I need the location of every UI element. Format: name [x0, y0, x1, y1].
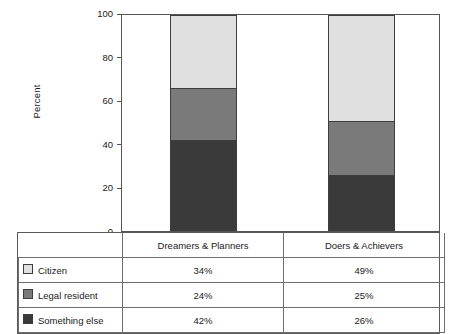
legend-item-citizen: Citizen	[19, 258, 123, 283]
legend-swatch-something-else	[23, 314, 33, 324]
bar-segment-legal-resident	[170, 88, 237, 140]
y-tick-label: 20	[83, 181, 113, 195]
legend-swatch-legal-resident	[23, 289, 33, 299]
bar-segment-citizen	[328, 15, 395, 121]
plot-area	[121, 14, 440, 232]
y-axis-label: Percent	[31, 62, 42, 142]
y-tick-label: 100	[83, 7, 113, 21]
bar-segment-citizen	[170, 15, 237, 88]
cell-something-else-doers: 26%	[284, 308, 445, 333]
legend-item-legal-resident: Legal resident	[19, 283, 123, 308]
bar-segment-legal-resident	[328, 121, 395, 175]
cell-citizen-dreamers: 34%	[123, 258, 284, 283]
data-table-legend: Dreamers & Planners Doers & Achievers Ci…	[17, 232, 440, 334]
table-row: Citizen 34% 49%	[19, 258, 445, 283]
legend-label: Citizen	[38, 265, 67, 276]
bar-segment-something-else	[328, 175, 395, 231]
y-tick-label: 80	[83, 51, 113, 65]
table-header-blank	[19, 233, 123, 258]
table-header-doers-and-achievers: Doers & Achievers	[284, 233, 445, 258]
table-header-row: Dreamers & Planners Doers & Achievers	[19, 233, 445, 258]
y-tick-label: 40	[83, 138, 113, 152]
table-row: Something else 42% 26%	[19, 308, 445, 333]
cell-legal-resident-dreamers: 24%	[123, 283, 284, 308]
cell-citizen-doers: 49%	[284, 258, 445, 283]
table-header-dreamers-and-planners: Dreamers & Planners	[123, 233, 284, 258]
bar-dreamers-and-planners	[170, 15, 237, 231]
legend-item-something-else: Something else	[19, 308, 123, 333]
stacked-bar-chart-figure: Percent 100 80 60 40 20 0	[0, 0, 456, 334]
cell-something-else-dreamers: 42%	[123, 308, 284, 333]
bar-segment-something-else	[170, 140, 237, 231]
bar-doers-and-achievers	[328, 15, 395, 231]
legend-swatch-citizen	[23, 264, 33, 274]
cell-legal-resident-doers: 25%	[284, 283, 445, 308]
legend-label: Legal resident	[38, 290, 98, 301]
legend-label: Something else	[38, 315, 103, 326]
y-tick-label: 60	[83, 94, 113, 108]
table-row: Legal resident 24% 25%	[19, 283, 445, 308]
